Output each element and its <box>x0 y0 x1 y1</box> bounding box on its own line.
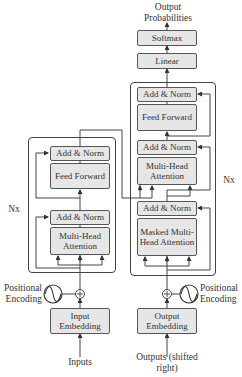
output-probabilities-label: Output Probabilities <box>130 2 206 24</box>
outputs-shifted-right-label: Outputs (shifted right) <box>130 352 204 374</box>
output-embedding-box: Output Embedding <box>137 308 197 334</box>
linear-box: Linear <box>137 53 197 69</box>
encoder-multi-head-attention: Multi-Head Attention <box>50 227 110 255</box>
decoder-add-norm-mid: Add & Norm <box>137 140 197 155</box>
encoder-feed-forward: Feed Forward <box>50 163 110 189</box>
softmax-box: Softmax <box>137 30 197 46</box>
encoder-add-norm-top: Add & Norm <box>50 146 110 161</box>
encoder-repeat-label: Nx <box>4 204 24 215</box>
decoder-masked-attention: Masked Multi-Head Attention <box>137 218 197 256</box>
decoder-add-norm-top: Add & Norm <box>137 87 197 102</box>
inputs-label: Inputs <box>50 357 110 368</box>
encoder-positional-encoding-label: Positional Encoding <box>0 283 42 305</box>
decoder-positional-encoding-label: Positional Encoding <box>200 283 242 305</box>
input-embedding-box: Input Embedding <box>50 308 110 334</box>
encoder-add-norm-bottom: Add & Norm <box>50 210 110 225</box>
decoder-multi-head-attention: Multi-Head Attention <box>137 157 197 185</box>
decoder-feed-forward: Feed Forward <box>137 104 197 131</box>
decoder-repeat-label: Nx <box>219 175 239 186</box>
decoder-add-norm-bottom: Add & Norm <box>137 201 197 216</box>
